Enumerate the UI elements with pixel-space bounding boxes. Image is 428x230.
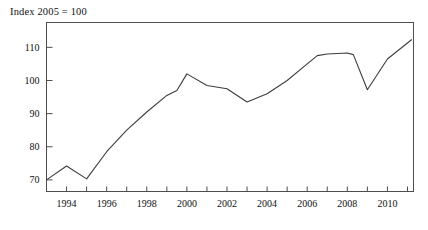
x-tick-label: 2010 (377, 198, 397, 209)
x-tick-label: 1998 (137, 198, 157, 209)
data-series-line (47, 40, 412, 180)
x-tick-label: 1996 (97, 198, 117, 209)
line-chart-plot: 7080901001101994199619982000200220042006… (0, 0, 428, 230)
x-tick-label: 2008 (337, 198, 357, 209)
y-tick-label: 100 (25, 75, 40, 86)
x-tick-label: 1994 (57, 198, 77, 209)
x-tick-label: 2004 (257, 198, 277, 209)
x-tick-label: 2002 (217, 198, 237, 209)
chart-container: Index 2005 = 100 70809010011019941996199… (0, 0, 428, 230)
x-tick-label: 2000 (177, 198, 197, 209)
y-tick-label: 90 (30, 108, 40, 119)
y-tick-label: 80 (30, 141, 40, 152)
x-tick-label: 2006 (297, 198, 317, 209)
plot-frame (47, 23, 414, 192)
y-tick-label: 110 (25, 42, 40, 53)
y-tick-label: 70 (30, 174, 40, 185)
